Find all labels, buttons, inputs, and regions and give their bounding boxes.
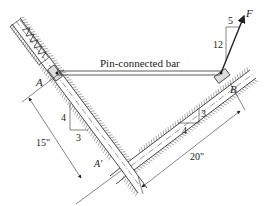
force-slope-rise: 12 — [213, 39, 223, 50]
dimension-20 — [138, 83, 245, 194]
left-slot — [12, 18, 147, 193]
mechanism-diagram: Pin-connected bar F 5 12 A B A' 4 3 3 4 … — [0, 0, 270, 206]
dimension-20-label: 20" — [190, 151, 204, 162]
pin-connected-bar[interactable] — [57, 71, 222, 75]
right-slope-run: 4 — [182, 125, 187, 136]
force-label: F — [245, 7, 253, 19]
pin-A — [56, 72, 59, 75]
right-slope-rise: 3 — [201, 108, 206, 119]
left-slope-run: 3 — [76, 132, 81, 143]
point-A-prime-label: A' — [93, 158, 103, 169]
force-slope-run: 5 — [228, 15, 233, 26]
dimension-15-label: 15" — [36, 137, 50, 148]
right-slope-triangle — [178, 108, 199, 123]
bar-label: Pin-connected bar — [100, 57, 180, 69]
point-A-label: A — [35, 76, 43, 88]
left-slope-rise: 4 — [61, 112, 66, 123]
spring-box — [10, 19, 48, 65]
left-slope-triangle — [70, 103, 88, 130]
